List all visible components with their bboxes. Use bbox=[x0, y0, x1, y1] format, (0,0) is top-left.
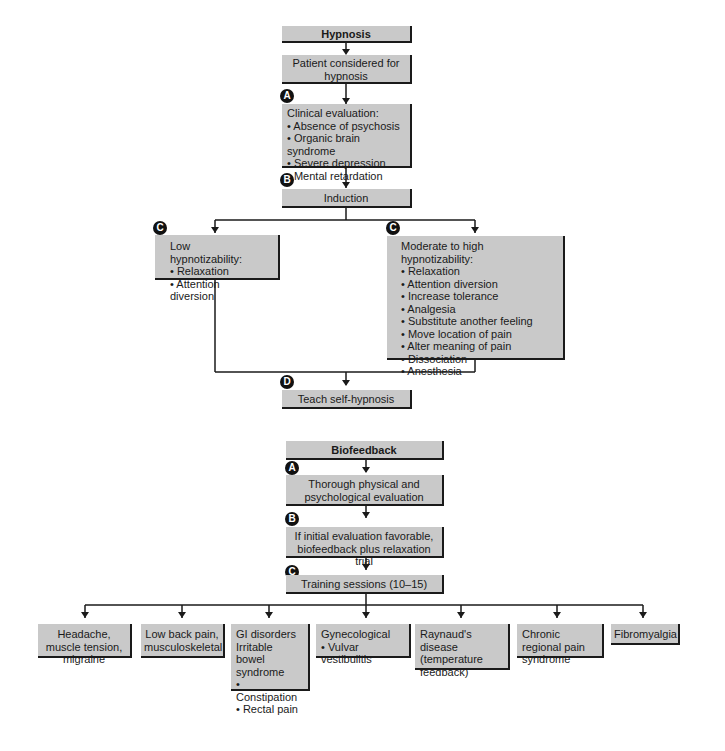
biofeedback-title-box: Biofeedback bbox=[286, 441, 444, 460]
condition-label: Fibromyalgia bbox=[614, 628, 677, 640]
patient-box: Patient considered for hypnosis bbox=[282, 55, 412, 84]
hypnosis-title: Hypnosis bbox=[321, 28, 371, 40]
condition-label: Gynecological bbox=[321, 628, 404, 641]
low-item: Attention diversion bbox=[170, 278, 263, 303]
badge-d-icon: D bbox=[280, 375, 294, 389]
training-sessions-box: Training sessions (10–15) bbox=[286, 575, 444, 594]
high-heading: Moderate to high hypnotizability: bbox=[401, 240, 549, 265]
evaluation-item: Organic brain syndrome bbox=[287, 132, 405, 157]
condition-item: Constipation bbox=[236, 678, 303, 703]
evaluation-item: Severe depression bbox=[287, 157, 405, 170]
high-item: Anesthesia bbox=[401, 365, 549, 378]
evaluation-item: Mental retardation bbox=[287, 170, 405, 183]
badge-a-bio-icon: A bbox=[285, 461, 299, 475]
evaluation-item: Absence of psychosis bbox=[287, 120, 405, 133]
high-hypnotizability-box: Moderate to high hypnotizability: Relaxa… bbox=[387, 236, 565, 360]
badge-b-bio-icon: B bbox=[285, 512, 299, 526]
clinical-evaluation-box: Clinical evaluation: Absence of psychosi… bbox=[282, 104, 412, 168]
clinical-evaluation-heading: Clinical evaluation: bbox=[287, 107, 405, 120]
low-hypnotizability-box: Low hypnotizability: Relaxation Attentio… bbox=[155, 235, 280, 280]
high-item: Relaxation bbox=[401, 265, 549, 278]
condition-headache: Headache, muscle tension, migraine bbox=[38, 624, 132, 658]
condition-gi-disorders: GI disorders Irritable bowel syndrome Co… bbox=[231, 624, 310, 691]
condition-label: GI disorders Irritable bowel syndrome bbox=[236, 628, 303, 678]
low-heading: Low hypnotizability: bbox=[170, 240, 263, 265]
training-sessions-label: Training sessions (10–15) bbox=[301, 578, 427, 590]
high-item: Analgesia bbox=[401, 303, 549, 316]
self-hypnosis-label: Teach self-hypnosis bbox=[298, 393, 395, 405]
patient-label: Patient considered for hypnosis bbox=[292, 57, 399, 82]
badge-a-icon: A bbox=[280, 89, 294, 103]
condition-fibromyalgia: Fibromyalgia bbox=[611, 624, 680, 645]
high-item: Substitute another feeling bbox=[401, 315, 549, 328]
badge-b-icon: B bbox=[280, 173, 294, 187]
biofeedback-title: Biofeedback bbox=[331, 444, 396, 456]
high-item: Alter meaning of pain bbox=[401, 340, 549, 353]
relaxation-trial-box: If initial evaluation favorable, biofeed… bbox=[286, 527, 444, 558]
self-hypnosis-box: Teach self-hypnosis bbox=[282, 390, 412, 409]
badge-c-low-icon: C bbox=[153, 221, 167, 235]
high-item: Dissociation bbox=[401, 353, 549, 366]
thorough-evaluation-box: Thorough physical and psychological eval… bbox=[286, 475, 444, 506]
condition-crps: Chronic regional pain syndrome bbox=[517, 624, 604, 658]
condition-item: Rectal pain bbox=[236, 703, 303, 716]
high-item: Move location of pain bbox=[401, 328, 549, 341]
condition-item: Vulvar vestibulitis bbox=[321, 641, 404, 666]
condition-label: Low back pain, musculoskeletal bbox=[144, 628, 222, 653]
induction-label: Induction bbox=[324, 192, 369, 204]
condition-gynecological: Gynecological Vulvar vestibulitis bbox=[316, 624, 411, 658]
induction-box: Induction bbox=[282, 189, 412, 208]
thorough-evaluation-label: Thorough physical and psychological eval… bbox=[304, 478, 423, 503]
high-item: Attention diversion bbox=[401, 278, 549, 291]
high-item: Increase tolerance bbox=[401, 290, 549, 303]
condition-raynauds: Raynaud's disease (temperature feedback) bbox=[415, 624, 510, 670]
low-item: Relaxation bbox=[170, 265, 263, 278]
condition-low-back-pain: Low back pain, musculoskeletal bbox=[141, 624, 225, 658]
hypnosis-title-box: Hypnosis bbox=[282, 26, 412, 43]
badge-c-high-icon: C bbox=[386, 221, 400, 235]
